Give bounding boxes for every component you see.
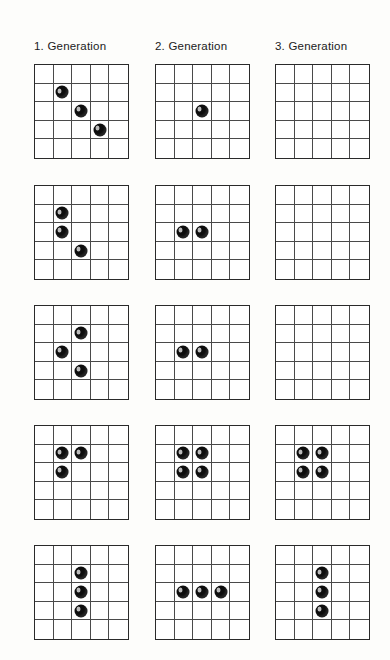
grid-cell [91,205,110,224]
live-cell-stone [177,585,190,598]
grid-cell [91,380,110,399]
grid-cell-live [193,445,212,464]
grid-cell [193,500,212,519]
grid-cell [35,139,54,158]
grid-cell [230,546,249,565]
grid-cell [276,242,295,261]
grid-cell [276,343,295,362]
grid-cell [212,242,231,261]
grid-cell [313,426,332,445]
grid-cell [175,121,194,140]
live-cell-stone [315,585,328,598]
grid-cell [295,306,314,325]
grid-cell [91,482,110,501]
grid-cell [350,242,369,261]
grid-cell [276,463,295,482]
grid-cell [35,186,54,205]
grid-cell [350,445,369,464]
board-example-2-gen3 [275,185,370,280]
grid-cell [276,602,295,621]
grid-cell-live [193,463,212,482]
grid-cell [91,139,110,158]
grid-cell [91,260,110,279]
grid-cell [72,260,91,279]
live-cell-stone [74,447,87,460]
grid-cell [175,380,194,399]
grid-cell [109,139,128,158]
grid-cell [156,65,175,84]
grid-cell [35,306,54,325]
live-cell-stone [56,465,69,478]
grid-cell [295,343,314,362]
grid-cell [109,102,128,121]
grid-cell [35,325,54,344]
grid-cell [230,102,249,121]
grid-cell [54,325,73,344]
live-cell-stone [74,604,87,617]
grid-cell [156,186,175,205]
grid-cell [230,620,249,639]
grid-cell [332,380,351,399]
grid-cell [109,121,128,140]
grid-cell [54,380,73,399]
board-example-3-gen1 [34,305,129,400]
grid-cell [156,500,175,519]
grid-cell [230,500,249,519]
grid-cell-live [54,223,73,242]
grid-cell-live [54,463,73,482]
grid-cell [212,602,231,621]
grid-cell [276,260,295,279]
grid-cell [193,139,212,158]
figure-canvas: 1. Generation 2. Generation 3. Generatio… [0,0,390,660]
grid-cell [313,102,332,121]
grid-cell [175,102,194,121]
grid-cell [276,620,295,639]
grid-cell [91,362,110,381]
live-cell-stone [74,244,87,257]
grid-cell [35,500,54,519]
grid-cell [91,583,110,602]
grid-cell [332,565,351,584]
board-example-5-gen2 [155,545,250,640]
grid-cell [295,602,314,621]
grid-cell [193,306,212,325]
column-header-gen3: 3. Generation [275,40,347,52]
grid-cell-live [313,602,332,621]
grid-cell [91,565,110,584]
grid-cell [175,205,194,224]
grid-cell [313,242,332,261]
grid-cell [350,121,369,140]
grid-cell [295,482,314,501]
grid-cell [72,139,91,158]
board-example-4-gen2 [155,425,250,520]
grid-cell-live [72,602,91,621]
grid-cell [193,482,212,501]
board-example-3-gen3 [275,305,370,400]
board-example-4-gen3 [275,425,370,520]
board-cells [35,426,128,519]
grid-cell [54,583,73,602]
grid-cell [230,260,249,279]
grid-cell [313,343,332,362]
board-example-3-gen2 [155,305,250,400]
grid-cell [109,380,128,399]
live-cell-stone [56,207,69,220]
grid-cell [212,121,231,140]
grid-cell [332,121,351,140]
grid-cell [156,260,175,279]
grid-cell [332,546,351,565]
live-cell-stone [74,567,87,580]
grid-cell [156,139,175,158]
grid-cell [212,482,231,501]
grid-cell [193,380,212,399]
grid-cell [175,84,194,103]
grid-cell [193,84,212,103]
grid-cell [350,602,369,621]
board-cells [156,186,249,279]
grid-cell [175,565,194,584]
grid-cell [109,583,128,602]
grid-cell [109,620,128,639]
live-cell-stone [315,604,328,617]
grid-cell [276,380,295,399]
grid-cell [72,380,91,399]
